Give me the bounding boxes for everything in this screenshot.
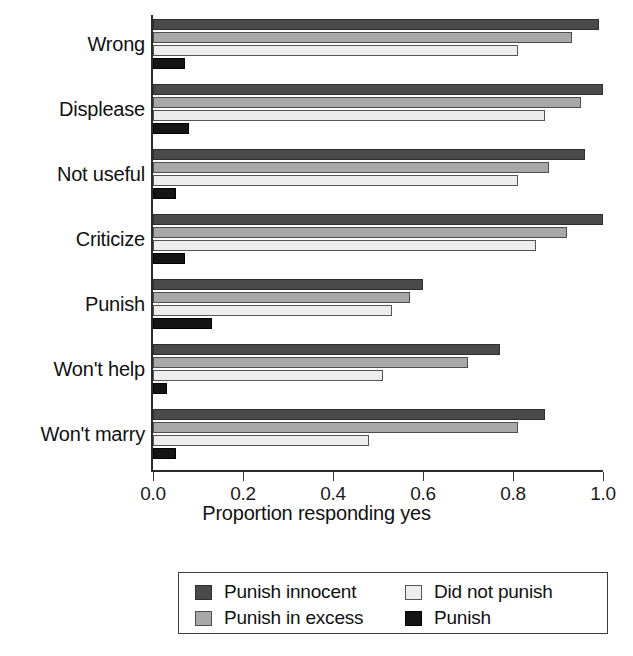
bar [153,188,176,199]
x-tick-0.6 [423,472,424,481]
bar [153,448,176,459]
legend-swatch-icon-punish-in-excess [195,611,212,626]
bar-chart: WrongDispleaseNot usefulCriticizePunishW… [0,0,633,656]
legend-swatch-icon-punish [405,611,422,626]
bar [153,123,189,134]
bar [153,97,581,108]
bar [153,370,383,381]
bar-group [153,409,603,459]
bar [153,422,518,433]
bar [153,175,518,186]
legend-label-punish: Punish [434,607,491,629]
legend-item-punish-innocent: Punish innocent [195,581,356,603]
bar [153,409,545,420]
bar-group [153,344,603,394]
legend-swatch-icon-punish-innocent [195,585,212,600]
bar [153,32,572,43]
x-tick-0.4 [333,472,334,481]
bar [153,279,423,290]
bar [153,45,518,56]
category-label: Displease [0,98,145,120]
legend-item-punish: Punish [405,607,491,629]
bar-group [153,214,603,264]
category-label: Won't marry [0,423,145,445]
legend-swatch-icon-did-not-punish [405,585,422,600]
bar [153,357,468,368]
bar-group [153,279,603,329]
bar [153,383,167,394]
legend-label-punish-innocent: Punish innocent [224,581,356,603]
plot-area: 0.00.20.40.60.81.0 [153,15,603,470]
bar-group [153,84,603,134]
x-tick-1.0 [603,472,604,481]
category-label: Not useful [0,163,145,185]
bar [153,214,603,225]
bar [153,240,536,251]
bar [153,227,567,238]
bar [153,344,500,355]
category-label: Punish [0,293,145,315]
legend-label-punish-in-excess: Punish in excess [224,607,363,629]
category-axis-labels: WrongDispleaseNot usefulCriticizePunishW… [0,15,145,470]
x-tick-0.8 [513,472,514,481]
bar [153,84,603,95]
bar [153,318,212,329]
x-axis-title: Proportion responding yes [0,502,633,525]
bar [153,110,545,121]
bar-group [153,149,603,199]
bar [153,435,369,446]
x-tick-0.2 [243,472,244,481]
x-axis-line [151,470,603,472]
legend-label-did-not-punish: Did not punish [434,581,553,603]
bar [153,253,185,264]
legend-item-did-not-punish: Did not punish [405,581,553,603]
category-label: Won't help [0,358,145,380]
bar [153,19,599,30]
bar [153,162,549,173]
legend-item-punish-in-excess: Punish in excess [195,607,363,629]
legend: Punish innocent Punish in excess Did not… [178,572,608,634]
category-label: Wrong [0,33,145,55]
bar [153,149,585,160]
bar-group [153,19,603,69]
category-label: Criticize [0,228,145,250]
x-tick-0.0 [153,472,154,481]
bar [153,305,392,316]
bar [153,58,185,69]
bar [153,292,410,303]
